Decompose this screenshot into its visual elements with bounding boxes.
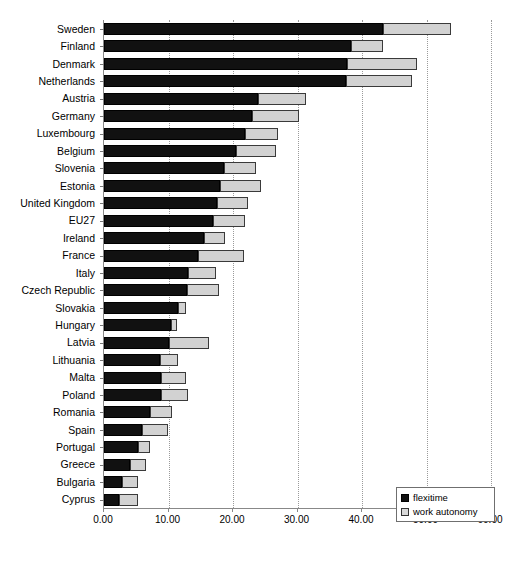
bar-row — [104, 229, 490, 246]
bar-segment-flexitime — [104, 110, 252, 122]
bar-segment-work-autonomy — [346, 75, 412, 87]
y-axis-label-sweden: Sweden — [0, 23, 95, 35]
bar-segment-flexitime — [104, 93, 258, 105]
bar-segment-work-autonomy — [130, 459, 146, 471]
y-axis-label-slovenia: Slovenia — [0, 162, 95, 174]
chart-legend: flexitime work autonomy — [396, 487, 495, 522]
plot-area — [103, 20, 490, 508]
x-tick-label: 20.00 — [202, 514, 262, 525]
bar-segment-work-autonomy — [383, 23, 451, 35]
legend-label-flexitime: flexitime — [413, 493, 448, 503]
bar-segment-work-autonomy — [171, 319, 177, 331]
bar-row — [104, 177, 490, 194]
y-axis-label-hungary: Hungary — [0, 319, 95, 331]
y-axis-label-eu27: EU27 — [0, 214, 95, 226]
y-axis-label-italy: Italy — [0, 267, 95, 279]
y-axis-label-estonia: Estonia — [0, 180, 95, 192]
bar-row — [104, 20, 490, 37]
grey-square-icon — [401, 508, 409, 516]
y-axis-label-netherlands: Netherlands — [0, 75, 95, 87]
bar-segment-flexitime — [104, 406, 150, 418]
bar-segment-flexitime — [104, 40, 351, 52]
bar-row — [104, 369, 490, 386]
bar-row — [104, 456, 490, 473]
y-axis-label-romania: Romania — [0, 406, 95, 418]
bar-segment-flexitime — [104, 302, 178, 314]
x-tick — [297, 508, 298, 512]
bar-segment-flexitime — [104, 441, 138, 453]
bar-segment-work-autonomy — [236, 145, 276, 157]
bar-segment-work-autonomy — [187, 284, 219, 296]
y-axis-label-luxembourg: Luxembourg — [0, 127, 95, 139]
bar-row — [104, 142, 490, 159]
bar-row — [104, 421, 490, 438]
bar-segment-flexitime — [104, 354, 160, 366]
y-axis-label-slovakia: Slovakia — [0, 302, 95, 314]
bar-segment-work-autonomy — [258, 93, 306, 105]
y-axis-label-austria: Austria — [0, 92, 95, 104]
x-tick — [361, 508, 362, 512]
y-axis-label-poland: Poland — [0, 389, 95, 401]
x-tick-label: 10.00 — [138, 514, 198, 525]
bar-segment-work-autonomy — [213, 215, 245, 227]
bar-row — [104, 72, 490, 89]
y-axis-label-spain: Spain — [0, 424, 95, 436]
y-axis-label-portugal: Portugal — [0, 441, 95, 453]
bar-segment-flexitime — [104, 232, 204, 244]
bar-segment-work-autonomy — [188, 267, 216, 279]
bar-segment-flexitime — [104, 75, 346, 87]
legend-item-flexitime: flexitime — [401, 491, 490, 505]
y-axis-label-greece: Greece — [0, 458, 95, 470]
bar-segment-work-autonomy — [178, 302, 186, 314]
bar-segment-flexitime — [104, 180, 220, 192]
bar-row — [104, 125, 490, 142]
bar-segment-flexitime — [104, 494, 119, 506]
y-axis-label-cyprus: Cyprus — [0, 493, 95, 505]
bar-segment-work-autonomy — [347, 58, 417, 70]
bar-row — [104, 107, 490, 124]
x-tick — [103, 508, 104, 512]
bar-row — [104, 194, 490, 211]
bar-segment-flexitime — [104, 215, 213, 227]
bar-row — [104, 351, 490, 368]
bar-segment-work-autonomy — [161, 372, 186, 384]
legend-item-work-autonomy: work autonomy — [401, 505, 490, 519]
bar-segment-flexitime — [104, 128, 245, 140]
bar-row — [104, 281, 490, 298]
bar-segment-flexitime — [104, 250, 198, 262]
bar-segment-work-autonomy — [138, 441, 150, 453]
bar-segment-work-autonomy — [119, 494, 138, 506]
bar-row — [104, 247, 490, 264]
bar-row — [104, 334, 490, 351]
bar-segment-flexitime — [104, 337, 169, 349]
black-square-icon — [401, 494, 409, 502]
bar-row — [104, 438, 490, 455]
bar-segment-work-autonomy — [169, 337, 209, 349]
y-axis-label-ireland: Ireland — [0, 232, 95, 244]
x-tick — [168, 508, 169, 512]
bar-segment-work-autonomy — [245, 128, 278, 140]
y-axis-label-belgium: Belgium — [0, 145, 95, 157]
y-axis-label-czech-republic: Czech Republic — [0, 284, 95, 296]
y-axis-label-bulgaria: Bulgaria — [0, 476, 95, 488]
bar-segment-flexitime — [104, 319, 171, 331]
bar-segment-flexitime — [104, 197, 217, 209]
bar-segment-work-autonomy — [252, 110, 299, 122]
bar-segment-flexitime — [104, 476, 122, 488]
bar-segment-work-autonomy — [224, 162, 256, 174]
x-tick-label: 0.00 — [73, 514, 133, 525]
bar-segment-work-autonomy — [122, 476, 137, 488]
y-axis-label-latvia: Latvia — [0, 336, 95, 348]
chart-container: SwedenFinlandDenmarkNetherlandsAustriaGe… — [0, 0, 518, 566]
y-axis-labels: SwedenFinlandDenmarkNetherlandsAustriaGe… — [0, 20, 99, 508]
bar-row — [104, 386, 490, 403]
y-axis-label-france: France — [0, 249, 95, 261]
bar-segment-work-autonomy — [160, 354, 178, 366]
bar-row — [104, 316, 490, 333]
x-tick-label: 30.00 — [267, 514, 327, 525]
bar-segment-flexitime — [104, 145, 236, 157]
bar-segment-work-autonomy — [198, 250, 244, 262]
bar-row — [104, 37, 490, 54]
y-axis-label-denmark: Denmark — [0, 58, 95, 70]
bar-row — [104, 212, 490, 229]
